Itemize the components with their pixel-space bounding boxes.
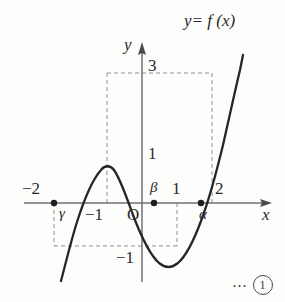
- function-graph-figure: [0, 0, 285, 302]
- y-tick-neg1: −1: [116, 249, 134, 266]
- root-label-alpha: α: [199, 207, 207, 222]
- y-tick-3: 3: [148, 57, 157, 74]
- reference-number: 1: [253, 275, 273, 295]
- x-tick-neg2: −2: [22, 180, 40, 197]
- function-label: y= f (x): [184, 12, 235, 29]
- root-label-gamma: γ: [59, 206, 65, 221]
- y-tick-1: 1: [148, 145, 157, 162]
- reference-marker: ⋯ 1: [232, 275, 273, 295]
- reference-dots: ⋯: [232, 277, 249, 293]
- x-axis-label: x: [262, 206, 270, 223]
- y-axis-label: y: [124, 36, 132, 53]
- cubic-curve: [61, 55, 243, 281]
- x-tick-2: 2: [215, 180, 224, 197]
- root-dot-beta: [151, 200, 157, 206]
- x-tick-neg1: −1: [85, 206, 103, 223]
- x-tick-1: 1: [172, 180, 181, 197]
- origin-label: O: [127, 206, 139, 223]
- root-dot-gamma: [51, 200, 57, 206]
- root-label-beta: β: [150, 180, 157, 195]
